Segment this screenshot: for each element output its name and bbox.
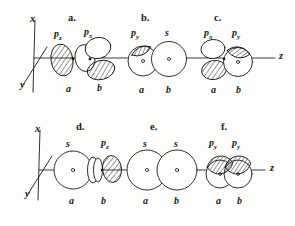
panel-d-site-label-b: b bbox=[101, 196, 106, 206]
panel-b-letter: b. bbox=[141, 13, 149, 24]
row2-x-axis-label: x bbox=[35, 124, 40, 135]
panel-d-letter: d. bbox=[76, 122, 84, 133]
panel-c-site-label-a: a bbox=[211, 85, 216, 95]
panel-e-site-label-b: b bbox=[174, 196, 179, 206]
panel-b-orbitals bbox=[128, 42, 187, 77]
panel-e-orbital-left-symbol: s bbox=[143, 138, 147, 149]
panel-f-letter: f. bbox=[221, 122, 227, 133]
panel-d-orbital-left-symbol: s bbox=[66, 138, 70, 149]
panel-b-orbital-left-subscript: y bbox=[136, 33, 139, 41]
panel-a-letter: a. bbox=[68, 13, 76, 24]
panel-c-orbitals bbox=[200, 38, 252, 81]
panel-a-orbital-left-subscript: z bbox=[59, 34, 62, 42]
panel-d-orbital-label-right: pz bbox=[101, 138, 109, 151]
panel-b-site-label-b: b bbox=[166, 85, 171, 95]
orbital-overlap-figure: x y z a. b. c. pz px a b py s a b px py … bbox=[0, 0, 295, 226]
panel-f-orbital-label-left: py bbox=[209, 138, 217, 151]
panel-f-site-label-b: b bbox=[237, 196, 242, 206]
panel-a-orbital-right-subscript: x bbox=[89, 32, 93, 40]
panel-b-orbital-label-left: py bbox=[131, 28, 139, 41]
panel-f-site-label-a: a bbox=[216, 196, 221, 206]
panel-b-site-label-a: a bbox=[139, 85, 144, 95]
panel-a-site-label-a: a bbox=[66, 84, 71, 94]
panel-b-orbital-right-symbol: s bbox=[165, 27, 169, 38]
panel-f-orbitals bbox=[206, 155, 252, 188]
panel-d-site-label-a: a bbox=[69, 196, 74, 206]
panel-b-orbital-label-right: s bbox=[165, 28, 169, 41]
row2-y-axis-label: y bbox=[25, 189, 30, 200]
panel-f-orbital-right-subscript: y bbox=[237, 143, 240, 151]
panel-e-letter: e. bbox=[150, 122, 157, 133]
panel-f-orbital-left-subscript: y bbox=[214, 143, 217, 151]
panel-e-orbital-label-right: s bbox=[174, 139, 178, 152]
row1-x-axis-label: x bbox=[30, 14, 35, 25]
row1-z-axis-label: z bbox=[279, 51, 283, 62]
row1-y-axis-label: y bbox=[20, 80, 25, 91]
panel-e-orbital-label-left: s bbox=[143, 139, 147, 152]
panel-e-site-label-a: a bbox=[143, 196, 148, 206]
panel-c-orbital-left-subscript: x bbox=[209, 33, 213, 41]
panel-c-orbital-label-left: px bbox=[204, 28, 213, 41]
panel-a-orbital-label-left: pz bbox=[54, 29, 62, 42]
panel-d-orbital-label-left: s bbox=[66, 139, 70, 152]
row2-z-axis-label: z bbox=[270, 163, 274, 174]
panel-e-orbitals bbox=[127, 150, 197, 190]
panel-c-orbital-right-subscript: y bbox=[237, 33, 240, 41]
panel-c-letter: c. bbox=[214, 13, 221, 24]
panel-c-orbital-label-right: py bbox=[232, 28, 240, 41]
panel-c-site-label-b: b bbox=[236, 85, 241, 95]
panel-f-orbital-label-right: py bbox=[232, 138, 240, 151]
panel-d-orbitals bbox=[54, 151, 123, 189]
panel-e-orbital-right-symbol: s bbox=[174, 138, 178, 149]
panel-d-orbital-right-subscript: z bbox=[106, 143, 109, 151]
panel-a-orbital-label-right: px bbox=[84, 27, 93, 40]
panel-a-site-label-b: b bbox=[97, 83, 102, 93]
figure-canvas bbox=[0, 0, 295, 226]
